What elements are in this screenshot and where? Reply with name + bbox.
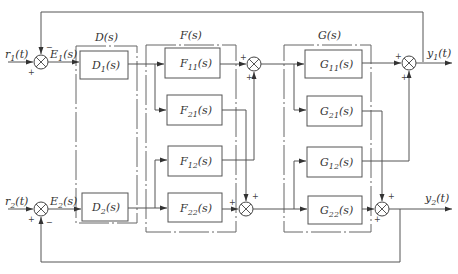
svg-text:+: + xyxy=(229,198,236,207)
error-E1-label: E1(s) xyxy=(49,48,77,63)
svg-text:+: + xyxy=(240,53,247,62)
output-y1-label: y1(t) xyxy=(426,47,451,62)
summing-junction-G2 xyxy=(375,202,389,216)
svg-text:+: + xyxy=(252,192,259,201)
svg-text:+: + xyxy=(401,73,408,82)
sign-plus: + xyxy=(28,215,35,224)
output-y2-label: y2(t) xyxy=(424,192,449,207)
sign-minus: − xyxy=(46,218,53,227)
summing-junction-F1 xyxy=(247,57,261,71)
svg-text:+: + xyxy=(246,73,253,82)
group-G-label: G(s) xyxy=(318,29,341,42)
summing-junction-2 xyxy=(34,202,48,216)
svg-text:+: + xyxy=(374,215,381,224)
error-E2-label: E2(s) xyxy=(49,195,77,210)
summing-junction-G1 xyxy=(402,56,416,70)
sign-plus: + xyxy=(28,68,35,77)
svg-text:+: + xyxy=(395,52,402,61)
input-r1-label: r1(t) xyxy=(5,48,28,63)
summing-junction-F2 xyxy=(239,202,253,216)
summing-junction-1 xyxy=(34,55,48,69)
svg-text:+: + xyxy=(388,192,395,201)
group-D-label: D(s) xyxy=(94,31,118,44)
block-diagram: D(s) F(s) G(s) + − + − r1(t) r2(t) E1(s)… xyxy=(0,0,458,274)
group-F-label: F(s) xyxy=(179,29,202,42)
svg-text:D2(s): D2(s) xyxy=(91,201,120,216)
svg-text:D1(s): D1(s) xyxy=(91,59,120,74)
input-r2-label: r2(t) xyxy=(5,195,28,210)
